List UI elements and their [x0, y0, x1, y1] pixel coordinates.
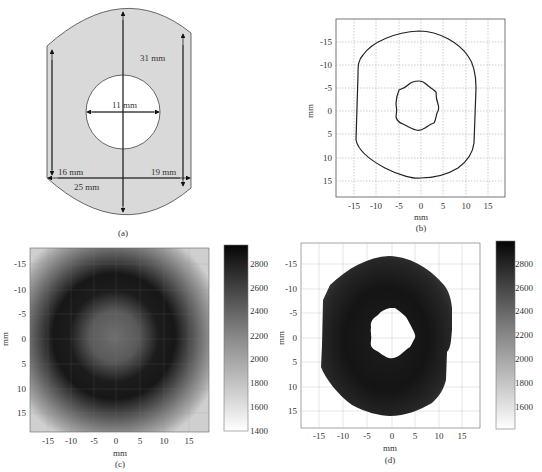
x-axis-label: mm [414, 212, 428, 222]
svg-text:-5: -5 [363, 431, 371, 441]
svg-text:1800: 1800 [515, 378, 534, 388]
svg-text:5: 5 [22, 359, 27, 369]
svg-text:0: 0 [114, 436, 119, 446]
plot-frame [336, 19, 505, 197]
svg-text:15: 15 [323, 176, 333, 186]
svg-text:2400: 2400 [250, 306, 269, 316]
svg-text:1400: 1400 [250, 426, 269, 436]
heatmap-c [30, 248, 209, 432]
y-tick-labels-c: -15 -10 -5 0 5 10 15 [14, 259, 27, 418]
panel-c-heatmap: -15 -10 -5 0 5 10 15 -15 -10 -5 0 5 10 1… [0, 235, 290, 472]
svg-text:2000: 2000 [250, 354, 269, 364]
svg-text:-5: -5 [90, 436, 98, 446]
svg-text:2200: 2200 [515, 330, 534, 340]
svg-text:1600: 1600 [515, 402, 534, 412]
y-tick-labels: -15 -10 -5 0 5 10 15 [320, 37, 333, 186]
svg-text:5: 5 [138, 436, 143, 446]
svg-text:-10: -10 [370, 201, 382, 211]
label-16mm: 16 mm [58, 167, 83, 177]
colorbar-c [224, 245, 248, 431]
svg-text:0: 0 [328, 106, 333, 116]
svg-text:0: 0 [293, 333, 298, 343]
svg-text:10: 10 [435, 431, 445, 441]
svg-text:2200: 2200 [250, 331, 269, 341]
x-tick-labels: -15 -10 -5 0 5 10 15 [348, 201, 493, 211]
y-axis-label-d: mm [280, 331, 286, 345]
svg-text:1600: 1600 [250, 402, 269, 412]
panel-a-diagram: 31 mm 11 mm 16 mm 19 mm 25 mm (a) [0, 0, 240, 240]
svg-text:-10: -10 [320, 60, 332, 70]
y-tick-labels-d: -15 -10 -5 0 5 10 15 [285, 259, 298, 416]
svg-text:15: 15 [17, 408, 27, 418]
svg-text:5: 5 [441, 201, 446, 211]
svg-text:2800: 2800 [250, 259, 269, 269]
svg-text:15: 15 [458, 431, 468, 441]
svg-text:-10: -10 [285, 284, 297, 294]
svg-text:-5: -5 [395, 201, 403, 211]
colorbar-c-labels: 2800 2600 2400 2200 2000 1800 1600 1400 [250, 259, 269, 436]
svg-text:-5: -5 [290, 308, 298, 318]
svg-text:2800: 2800 [515, 259, 534, 269]
svg-text:-10: -10 [337, 431, 349, 441]
svg-text:-10: -10 [65, 436, 77, 446]
svg-text:-10: -10 [14, 285, 26, 295]
svg-text:-15: -15 [313, 431, 325, 441]
caption-c: (c) [115, 459, 125, 469]
svg-text:10: 10 [17, 384, 27, 394]
svg-text:2000: 2000 [515, 354, 534, 364]
svg-text:-15: -15 [14, 259, 26, 269]
svg-text:5: 5 [293, 357, 298, 367]
y-axis-label: mm [305, 104, 315, 118]
svg-text:-5: -5 [325, 83, 333, 93]
svg-text:10: 10 [160, 436, 170, 446]
x-axis-label-d: mm [383, 443, 397, 453]
svg-text:0: 0 [419, 201, 424, 211]
svg-text:-15: -15 [285, 259, 297, 269]
svg-text:0: 0 [22, 334, 27, 344]
label-25mm: 25 mm [74, 182, 99, 192]
svg-text:1800: 1800 [250, 378, 269, 388]
x-tick-labels-d: -15 -10 -5 0 5 10 15 [313, 431, 467, 441]
svg-text:10: 10 [462, 201, 472, 211]
y-axis-label-c: mm [0, 332, 10, 346]
svg-text:2600: 2600 [515, 283, 534, 293]
label-19mm: 19 mm [151, 167, 176, 177]
svg-text:-15: -15 [348, 201, 360, 211]
panel-b-contours: -15 -10 -5 0 5 10 15 -15 -10 -5 0 5 10 1… [300, 0, 542, 240]
svg-text:-15: -15 [320, 37, 332, 47]
svg-text:5: 5 [413, 431, 418, 441]
panel-d-masked-heatmap: -15 -10 -5 0 5 10 15 -15 -10 -5 0 5 10 1… [280, 235, 542, 472]
label-31mm: 31 mm [140, 53, 165, 63]
svg-text:15: 15 [484, 201, 494, 211]
x-tick-labels-c: -15 -10 -5 0 5 10 15 [42, 436, 194, 446]
svg-text:-15: -15 [42, 436, 54, 446]
label-11mm: 11 mm [112, 100, 137, 110]
caption-b: (b) [416, 223, 427, 233]
caption-d: (d) [385, 455, 396, 465]
svg-text:10: 10 [288, 382, 298, 392]
svg-text:15: 15 [288, 406, 298, 416]
colorbar-d [496, 241, 515, 429]
svg-text:15: 15 [185, 436, 195, 446]
svg-text:2600: 2600 [250, 283, 269, 293]
svg-text:-5: -5 [19, 309, 27, 319]
svg-text:0: 0 [390, 431, 395, 441]
svg-text:10: 10 [323, 153, 333, 163]
svg-text:2400: 2400 [515, 306, 534, 316]
colorbar-d-labels: 2800 2600 2400 2200 2000 1800 1600 [515, 259, 534, 412]
svg-text:5: 5 [328, 129, 333, 139]
x-axis-label-c: mm [113, 448, 127, 458]
